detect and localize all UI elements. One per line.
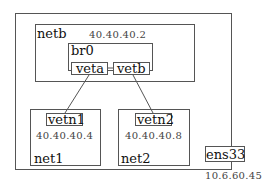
- ens33-label: ens33: [206, 148, 245, 161]
- netb-label: netb: [37, 27, 67, 40]
- net1-ip: 40.40.40.4: [36, 131, 93, 141]
- br0-label: br0: [71, 44, 94, 57]
- net2-label: net2: [121, 152, 151, 165]
- netb-ip: 40.40.40.2: [89, 30, 146, 40]
- vetb-label: vetb: [117, 62, 146, 75]
- net1-label: net1: [34, 152, 64, 165]
- net2-ip: 40.40.40.8: [125, 131, 182, 141]
- vetn2-label: vetn2: [137, 113, 174, 126]
- veta-label: veta: [76, 62, 104, 75]
- ens33-ip: 10.6.60.45: [205, 171, 262, 181]
- vetn1-label: vetn1: [48, 113, 85, 126]
